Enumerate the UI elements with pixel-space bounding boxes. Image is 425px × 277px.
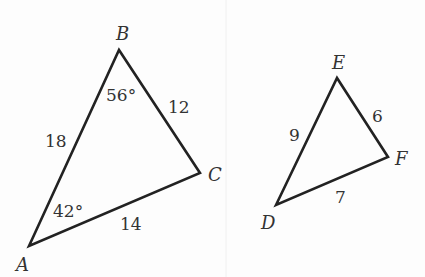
vertex-label-c: C (208, 164, 222, 185)
side-label-de: 9 (289, 125, 300, 145)
side-label-df: 7 (335, 187, 346, 207)
vertex-label-b: B (115, 23, 129, 44)
angle-label-a: 42° (53, 201, 83, 221)
side-label-ab: 18 (45, 131, 67, 151)
diagram-svg: B C A 18 12 14 56° 42° E F D 9 6 7 (0, 0, 425, 277)
side-label-ef: 6 (372, 106, 383, 126)
angle-label-b: 56° (106, 85, 136, 105)
side-label-bc: 12 (168, 97, 190, 117)
vertex-label-e: E (331, 52, 345, 73)
side-label-ac: 14 (120, 214, 142, 234)
similar-triangles-diagram: B C A 18 12 14 56° 42° E F D 9 6 7 (0, 0, 425, 277)
vertex-label-f: F (394, 148, 409, 169)
vertex-label-a: A (14, 254, 29, 275)
vertex-label-d: D (260, 212, 276, 233)
